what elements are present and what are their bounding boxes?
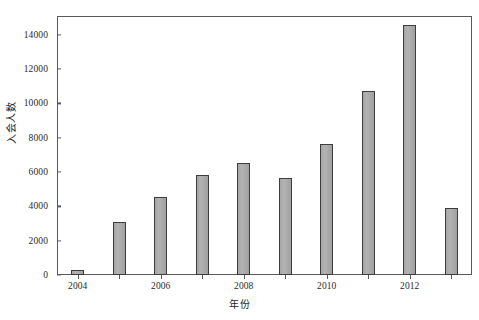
x-tick-mark [368, 275, 369, 279]
y-tick-mark [57, 103, 61, 104]
y-tick-label: 12000 [24, 64, 48, 74]
y-tick-mark [57, 206, 61, 207]
x-tick-label: 2010 [317, 281, 336, 291]
x-tick-mark [161, 275, 162, 279]
y-tick-label: 10000 [24, 98, 48, 108]
y-axis-ticks: 02000400060008000100001200014000 [0, 0, 57, 320]
y-tick-label: 2000 [29, 236, 48, 246]
bars-layer [57, 16, 472, 275]
bar-2013[interactable] [445, 208, 458, 275]
x-tick-label: 2006 [151, 281, 170, 291]
y-tick-mark [57, 171, 61, 172]
x-tick-mark [244, 275, 245, 279]
y-tick-mark [57, 69, 61, 70]
x-tick-mark [202, 275, 203, 279]
bar-2006[interactable] [154, 197, 167, 275]
bar-2012[interactable] [403, 25, 416, 275]
y-tick-mark [57, 274, 61, 275]
bar-2005[interactable] [113, 222, 126, 275]
x-tick-mark [78, 275, 79, 279]
y-tick-mark [57, 137, 61, 138]
bar-chart-figure: 入会人数 02000400060008000100001200014000 年份… [0, 0, 479, 320]
bar-2010[interactable] [320, 144, 333, 275]
y-tick-label: 8000 [29, 133, 48, 143]
x-tick-mark [285, 275, 286, 279]
y-tick-label: 6000 [29, 167, 48, 177]
y-tick-label: 4000 [29, 201, 48, 211]
y-tick-mark [57, 240, 61, 241]
x-axis-label: 年份 [0, 296, 479, 311]
bar-2008[interactable] [237, 163, 250, 275]
x-tick-mark [119, 275, 120, 279]
y-tick-label: 14000 [24, 30, 48, 40]
bar-2009[interactable] [279, 178, 292, 275]
y-tick-label: 0 [43, 270, 48, 280]
x-tick-label: 2012 [400, 281, 419, 291]
x-tick-label: 2008 [234, 281, 253, 291]
x-tick-mark [327, 275, 328, 279]
bar-2007[interactable] [196, 175, 209, 275]
x-tick-mark [451, 275, 452, 279]
y-tick-mark [57, 34, 61, 35]
x-tick-label: 2004 [68, 281, 87, 291]
bar-2011[interactable] [362, 91, 375, 275]
x-tick-mark [410, 275, 411, 279]
